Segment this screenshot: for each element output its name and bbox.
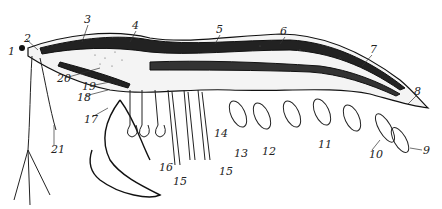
pleopods: [226, 96, 365, 133]
label-10: 10: [369, 149, 383, 160]
label-3: 3: [84, 14, 91, 25]
label-18: 18: [77, 92, 91, 103]
label-14: 14: [214, 128, 228, 139]
label-7: 7: [370, 44, 377, 55]
label-12: 12: [262, 146, 276, 157]
label-17: 17: [84, 114, 98, 125]
label-1: 1: [8, 46, 15, 57]
label-8: 8: [414, 86, 421, 97]
label-5: 5: [216, 24, 223, 35]
label-4: 4: [132, 20, 139, 31]
eye: [19, 45, 25, 51]
label-16: 16: [159, 162, 173, 173]
crustacean-diagram: 1 2 3 4 5 6 7 8 9 10 11 12 13 14 15 15 1…: [0, 0, 442, 209]
label-20: 20: [57, 73, 71, 84]
label-6: 6: [280, 26, 287, 37]
label-2: 2: [24, 33, 31, 44]
label-21: 21: [51, 144, 65, 155]
cheliped: [90, 100, 160, 197]
thoracic-legs: [127, 90, 210, 165]
label-13: 13: [234, 148, 248, 159]
label-15a: 15: [173, 176, 187, 187]
label-19: 19: [82, 81, 96, 92]
antenna: [14, 56, 56, 205]
label-11: 11: [318, 139, 332, 150]
label-15b: 15: [219, 166, 233, 177]
label-9: 9: [423, 145, 430, 156]
